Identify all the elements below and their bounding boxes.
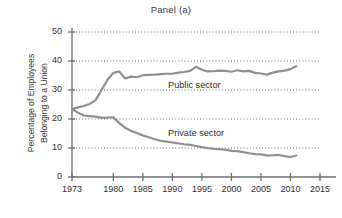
y-tick-label-40: 40 xyxy=(38,55,62,65)
chart-figure: Panel (a) Percentage of Employees Belong… xyxy=(0,0,342,218)
axis-ticks xyxy=(68,32,320,181)
y-tick-label-0: 0 xyxy=(38,171,62,181)
x-tick-label-2015: 2015 xyxy=(300,184,340,194)
y-tick-label-30: 30 xyxy=(38,84,62,94)
y-tick-label-50: 50 xyxy=(38,26,62,36)
x-tick-label-1973: 1973 xyxy=(52,184,92,194)
y-tick-label-10: 10 xyxy=(38,142,62,152)
series-label-public-sector: Public sector xyxy=(168,80,221,90)
y-tick-label-20: 20 xyxy=(38,113,62,123)
series-label-private-sector: Private sector xyxy=(168,128,224,138)
